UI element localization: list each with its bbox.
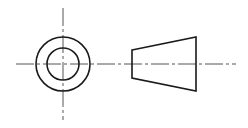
technical-drawing bbox=[0, 0, 248, 128]
